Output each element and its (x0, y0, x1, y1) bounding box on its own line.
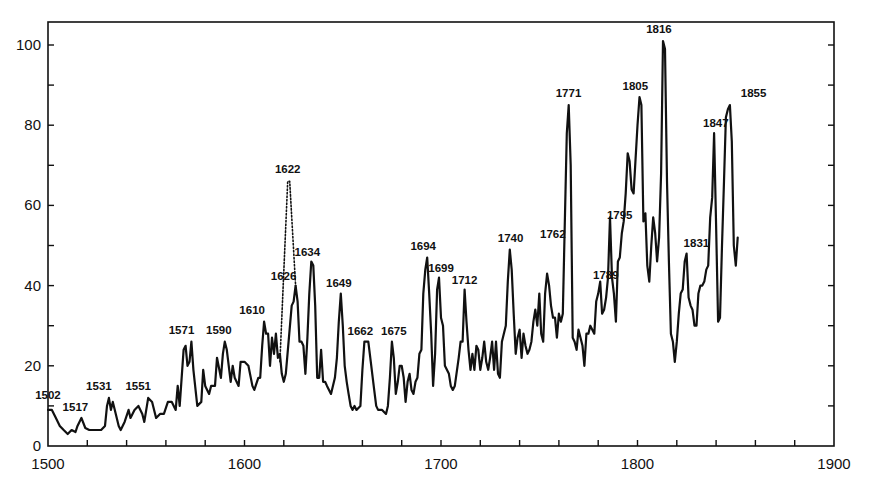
peak-year-annotations: 1502151715311551157115901610162216261634… (35, 23, 767, 413)
peak-label-1805: 1805 (623, 80, 649, 92)
y-tick-label: 0 (33, 437, 41, 454)
peak-label-1531: 1531 (86, 380, 112, 392)
y-tick-label: 100 (16, 36, 41, 53)
x-axis-tick-labels: 15001600170018001900 (31, 455, 850, 472)
data-series (48, 41, 738, 434)
y-tick-label: 80 (24, 116, 41, 133)
peak-label-1551: 1551 (125, 380, 151, 392)
peak-label-1590: 1590 (206, 324, 232, 336)
peak-label-1610: 1610 (239, 304, 265, 316)
peak-label-1634: 1634 (295, 246, 321, 258)
peak-label-1517: 1517 (63, 401, 89, 413)
peak-label-1622: 1622 (275, 163, 301, 175)
peak-label-1816: 1816 (646, 23, 672, 35)
peak-label-1762: 1762 (540, 228, 566, 240)
x-tick-label: 1900 (817, 455, 850, 472)
peak-label-1571: 1571 (169, 324, 195, 336)
peak-label-1675: 1675 (381, 325, 407, 337)
peak-label-1795: 1795 (607, 209, 633, 221)
y-tick-label: 20 (24, 357, 41, 374)
y-tick-label: 40 (24, 277, 41, 294)
main-series-line (48, 41, 738, 434)
x-tick-label: 1500 (31, 455, 64, 472)
peak-label-1662: 1662 (348, 325, 374, 337)
peak-label-1847: 1847 (703, 117, 729, 129)
peak-label-1699: 1699 (428, 262, 454, 274)
peak-label-1789: 1789 (593, 269, 619, 281)
peak-label-1694: 1694 (410, 240, 436, 252)
x-tick-label: 1700 (424, 455, 457, 472)
peak-label-1831: 1831 (684, 237, 710, 249)
peak-label-1855: 1855 (741, 87, 767, 99)
peak-label-1502: 1502 (35, 389, 61, 401)
peak-label-1712: 1712 (452, 274, 478, 286)
x-tick-label: 1800 (621, 455, 654, 472)
x-tick-label: 1600 (228, 455, 261, 472)
line-chart: 020406080100 15001600170018001900 150215… (0, 0, 872, 496)
peak-label-1740: 1740 (498, 232, 524, 244)
peak-label-1771: 1771 (556, 87, 582, 99)
y-tick-label: 60 (24, 196, 41, 213)
peak-label-1649: 1649 (326, 277, 352, 289)
peak-label-1626: 1626 (271, 270, 297, 282)
